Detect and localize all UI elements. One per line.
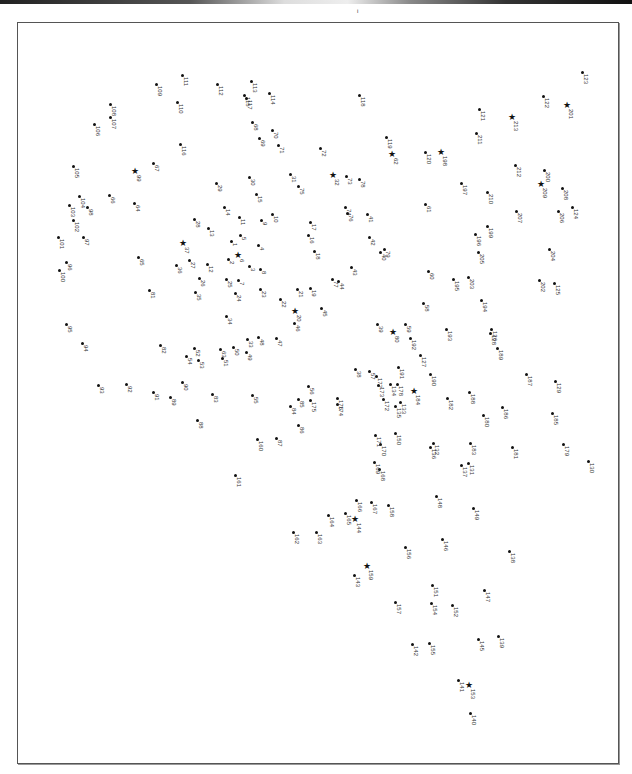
point-number: 48 (259, 339, 265, 346)
point-number: 89 (171, 399, 177, 406)
point-number: 39 (378, 326, 384, 333)
point-number: 54 (187, 358, 193, 365)
point-number: 47 (277, 340, 283, 347)
point-number: 121 (480, 111, 486, 121)
point-number: 92 (127, 386, 133, 393)
point-number: 170 (381, 446, 387, 456)
point-number: 184 (415, 395, 421, 405)
point-number: 191 (399, 369, 405, 379)
point-number: 188 (470, 394, 476, 404)
point-number: 154 (432, 605, 438, 615)
point-number: 14 (225, 209, 231, 216)
point-number: 146 (443, 541, 449, 551)
point-number: 107 (111, 119, 117, 129)
point-number: 43 (352, 269, 358, 276)
point-number: 103 (70, 207, 76, 217)
point-number: 213 (513, 121, 519, 131)
point-number: 142 (413, 646, 419, 656)
point-number: 45 (322, 310, 328, 317)
point-number: 111 (183, 77, 189, 86)
point-number: 66 (110, 197, 116, 204)
point-number: 70 (273, 132, 279, 139)
point-number: 1 (232, 243, 238, 246)
point-number: 29 (217, 185, 223, 192)
point-number: 164 (329, 517, 335, 527)
point-number: 25 (227, 281, 233, 288)
point-number: 198 (442, 156, 448, 166)
point-number: 187 (527, 376, 533, 386)
point-number: 118 (360, 97, 366, 107)
point-number: 82 (161, 347, 167, 354)
point-number: 10 (273, 216, 279, 223)
point-number: 182 (448, 400, 454, 410)
point-number: 77 (333, 281, 339, 288)
point-number: 179 (564, 446, 570, 456)
point-number: 155 (430, 645, 436, 655)
point-number: 88 (198, 422, 204, 429)
point-number: 94 (83, 345, 89, 352)
point-number: 144 (356, 523, 362, 533)
point-number: 99 (136, 175, 142, 182)
point-number: 137 (462, 467, 468, 477)
point-number: 35 (196, 294, 202, 301)
point-number: 109 (157, 86, 163, 96)
point-number: 21 (298, 291, 304, 298)
point-number: 101 (59, 239, 65, 249)
point-number: 167 (372, 504, 378, 514)
point-number: 139 (499, 638, 505, 648)
point-number: 95 (67, 326, 73, 333)
point-number: 183 (471, 445, 477, 455)
point-number: 17 (311, 224, 317, 231)
point-number: 60 (429, 273, 435, 280)
point-number: 37 (184, 247, 190, 254)
point-number: 149 (474, 510, 480, 520)
point-number: 96 (67, 264, 73, 271)
point-number: 117 (247, 100, 253, 110)
point-number: 68 (253, 124, 259, 131)
corner-mark: i (357, 8, 358, 14)
point-number: 104 (80, 198, 86, 208)
point-number: 112 (218, 86, 224, 96)
point-number: 30 (250, 179, 256, 186)
point-number: 26 (200, 280, 206, 287)
point-number: 50 (234, 349, 240, 356)
point-number: 24 (236, 295, 242, 302)
point-number: 173 (379, 387, 385, 397)
point-number: 12 (208, 266, 214, 273)
point-number: 210 (488, 194, 494, 204)
point-number: 129 (556, 383, 562, 393)
point-number: 85 (299, 401, 305, 408)
point-number: 209 (542, 188, 548, 198)
point-number: 31 (291, 176, 297, 183)
point-number: 190 (431, 376, 437, 386)
point-number: 7 (239, 282, 245, 285)
point-number: 76 (348, 215, 354, 222)
point-number: 32 (334, 179, 340, 186)
point-number: 140 (471, 715, 477, 725)
point-number: 71 (279, 147, 285, 154)
point-number: 108 (111, 106, 117, 116)
point-number: 195 (454, 281, 460, 291)
point-number: 163 (317, 534, 323, 544)
point-number: 44 (339, 283, 345, 290)
point-number: 52 (195, 350, 201, 357)
point-number: 147 (485, 592, 491, 602)
point-number: 15 (257, 196, 263, 203)
point-number: 55 (253, 397, 259, 404)
point-number: 161 (236, 477, 242, 487)
point-number: 127 (421, 357, 427, 367)
point-number: 178 (398, 386, 404, 396)
point-number: 192 (411, 340, 417, 350)
point-number: 138 (510, 553, 516, 563)
point-number: 97 (84, 239, 90, 246)
point-number: 19 (311, 290, 317, 297)
point-number: 49 (247, 354, 253, 361)
point-number: 189 (498, 350, 504, 360)
point-number: 62 (393, 158, 399, 165)
point-number: 93 (99, 387, 105, 394)
point-number: 110 (178, 104, 184, 114)
point-number: 145 (479, 641, 485, 651)
point-number: 41 (368, 216, 374, 223)
point-number: 20 (296, 315, 302, 322)
point-number: 38 (356, 371, 362, 378)
